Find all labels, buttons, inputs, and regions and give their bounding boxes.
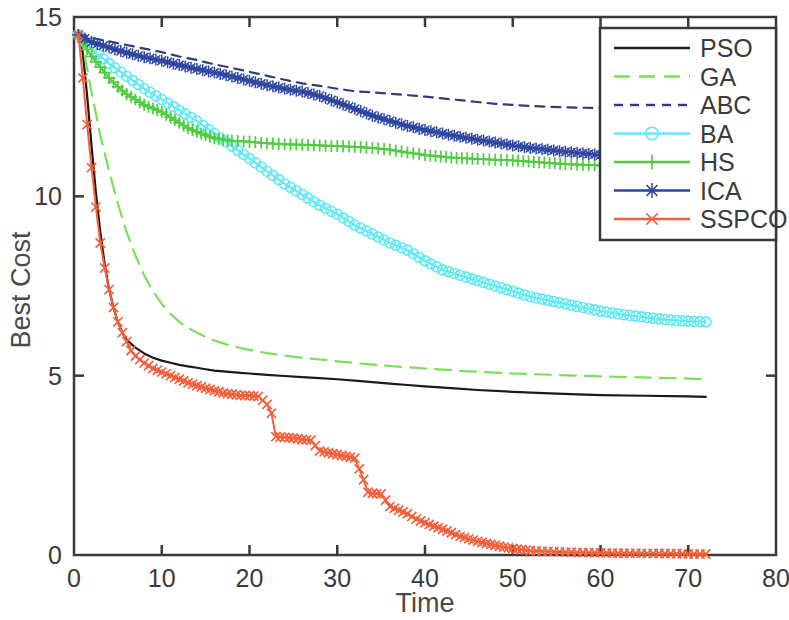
- y-axis-title: Best Cost: [6, 231, 36, 349]
- y-tick-label: 15: [34, 3, 62, 31]
- y-tick-label: 10: [34, 182, 62, 210]
- best-cost-convergence-chart: 01020304050607080 051015 Time Best Cost …: [0, 0, 789, 620]
- y-axis-tick-labels: 051015: [34, 3, 62, 569]
- legend-label: BA: [700, 120, 734, 148]
- x-tick-label: 10: [148, 564, 176, 592]
- x-tick-label: 50: [499, 564, 527, 592]
- x-tick-label: 20: [236, 564, 264, 592]
- legend[interactable]: PSOGAABCBAHSICASSPCO: [600, 28, 788, 240]
- x-tick-label: 80: [762, 564, 789, 592]
- legend-label: SSPCO: [700, 205, 788, 233]
- x-tick-label: 70: [674, 564, 702, 592]
- legend-label: HS: [700, 148, 735, 176]
- y-tick-label: 0: [48, 541, 62, 569]
- legend-label: ABC: [700, 91, 751, 119]
- x-tick-label: 60: [587, 564, 615, 592]
- marker-star: [645, 183, 660, 198]
- y-tick-label: 5: [48, 362, 62, 390]
- x-tick-label: 30: [323, 564, 351, 592]
- legend-label: ICA: [700, 177, 742, 205]
- chart-container: 01020304050607080 051015 Time Best Cost …: [0, 0, 789, 620]
- legend-label: PSO: [700, 34, 753, 62]
- legend-label: GA: [700, 63, 736, 91]
- x-tick-label: 0: [67, 564, 81, 592]
- x-axis-title: Time: [396, 588, 455, 618]
